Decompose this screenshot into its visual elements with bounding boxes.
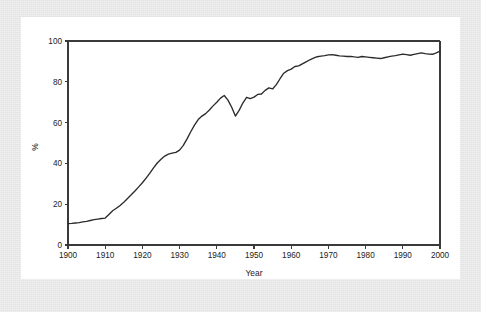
y-tick-label-80: 80 (53, 78, 63, 87)
x-tick-label-1900: 1900 (59, 251, 78, 260)
y-tick-label-20: 20 (53, 200, 63, 209)
y-tick-label-0: 0 (57, 241, 62, 250)
y-tick-label-100: 100 (48, 37, 62, 46)
x-tick-label-1990: 1990 (394, 251, 413, 260)
y-tick-label-40: 40 (53, 159, 63, 168)
x-tick-label-1980: 1980 (356, 251, 375, 260)
y-tick-label-60: 60 (53, 119, 63, 128)
chart-page: 020406080100 190019101920193019401950196… (0, 0, 481, 312)
line-chart-figure: 020406080100 190019101920193019401950196… (0, 0, 481, 312)
x-tick-label-1960: 1960 (282, 251, 301, 260)
x-tick-label-1970: 1970 (319, 251, 338, 260)
x-tick-label-1910: 1910 (96, 251, 115, 260)
x-tick-label-1950: 1950 (245, 251, 264, 260)
y-axis-title: % (30, 143, 40, 151)
x-tick-labels: 1900191019201930194019501960197019801990… (59, 251, 450, 260)
y-tick-labels: 020406080100 (48, 37, 62, 250)
x-tick-label-1920: 1920 (133, 251, 152, 260)
x-tick-label-1940: 1940 (208, 251, 227, 260)
chart-svg: 020406080100 190019101920193019401950196… (0, 0, 481, 312)
data-series-group (68, 51, 440, 223)
x-axis-title: Year (246, 268, 263, 278)
series-line-primary (68, 51, 440, 223)
plot-axes (68, 41, 440, 245)
x-tick-label-1930: 1930 (170, 251, 189, 260)
x-tick-label-2000: 2000 (431, 251, 450, 260)
